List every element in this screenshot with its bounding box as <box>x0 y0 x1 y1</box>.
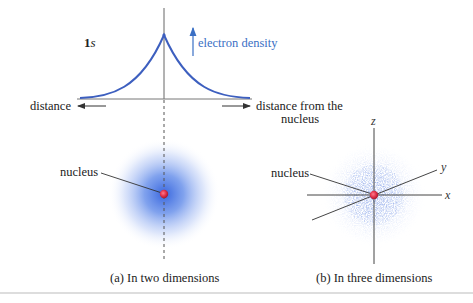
z-axis-label: z <box>370 114 376 128</box>
orbital-diagram: 1s electron density distance distance fr… <box>0 0 473 303</box>
x-right-label-line1: distance from the <box>256 99 343 113</box>
density-graph: 1s electron density distance distance fr… <box>30 8 343 126</box>
y-axis-label: electron density <box>198 36 278 50</box>
peak-dot <box>162 33 165 36</box>
nucleus-3d <box>370 191 378 199</box>
nucleus-2d <box>160 190 168 198</box>
orbital-label: 1s <box>84 35 96 50</box>
caption-a: (a) In two dimensions <box>110 271 219 285</box>
panel-three-dimensions: nucleus z y x (b) In three dimensions <box>271 114 451 285</box>
y-axis-label-3d: y <box>440 160 447 174</box>
nucleus-label-2d: nucleus <box>60 165 98 179</box>
x-left-label: distance <box>30 99 71 113</box>
panel-two-dimensions: nucleus (a) In two dimensions <box>60 100 220 285</box>
nucleus-label-3d: nucleus <box>271 166 309 180</box>
x-right-label-line2: nucleus <box>281 112 319 126</box>
x-axis-label-3d: x <box>444 188 451 202</box>
caption-b: (b) In three dimensions <box>316 271 432 285</box>
